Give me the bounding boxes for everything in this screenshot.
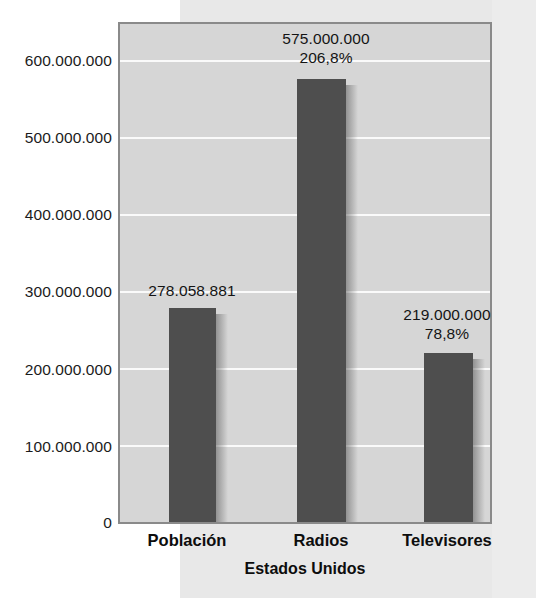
chart-plot-frame — [118, 22, 492, 524]
bar-shadow-televisores — [473, 359, 485, 522]
y-tick-300000000: 300.000.000 — [25, 283, 112, 301]
data-label-radios-percent: 206,8% — [251, 48, 401, 67]
bar-televisores[interactable] — [424, 353, 473, 522]
scan-background-band-right — [492, 0, 536, 598]
bar-radios[interactable] — [297, 79, 346, 522]
bar-poblacion[interactable] — [169, 308, 216, 522]
x-axis-title: Estados Unidos — [118, 560, 492, 578]
y-tick-100000000: 100.000.000 — [25, 438, 112, 456]
data-label-poblacion-value: 278.058.881 — [122, 281, 262, 300]
category-label-poblacion: Población — [117, 531, 257, 550]
data-label-radios-value: 575.000.000 — [251, 29, 401, 48]
y-axis-tick-labels: 600.000.000 500.000.000 400.000.000 300.… — [0, 0, 112, 598]
bar-shadow-poblacion — [216, 314, 228, 522]
y-tick-0: 0 — [103, 514, 112, 532]
data-label-poblacion: 278.058.881 — [122, 281, 262, 300]
y-tick-600000000: 600.000.000 — [25, 52, 112, 70]
data-label-radios: 575.000.000 206,8% — [251, 29, 401, 67]
data-label-televisores-value: 219.000.000 — [372, 305, 522, 324]
data-label-televisores-percent: 78,8% — [372, 324, 522, 343]
plot-area — [120, 24, 490, 522]
category-label-radios: Radios — [251, 531, 391, 550]
bar-shadow-radios — [346, 85, 358, 522]
y-tick-400000000: 400.000.000 — [25, 206, 112, 224]
category-label-televisores: Televisores — [372, 531, 522, 550]
y-tick-500000000: 500.000.000 — [25, 129, 112, 147]
data-label-televisores: 219.000.000 78,8% — [372, 305, 522, 343]
y-tick-200000000: 200.000.000 — [25, 361, 112, 379]
